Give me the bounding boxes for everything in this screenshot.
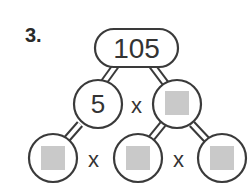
connector-five-left [66, 124, 80, 140]
blank-box-icon [41, 146, 65, 170]
problem-number: 3. [25, 24, 42, 47]
factor-tree: 3. 105 5 x x x [0, 0, 252, 190]
five-value: 5 [74, 91, 122, 117]
root-value: 105 [95, 35, 178, 63]
blank-box-icon [210, 146, 234, 170]
multiply-sign-level2-b: x [173, 149, 184, 171]
multiply-sign-level1: x [131, 95, 142, 117]
multiply-sign-level2-a: x [88, 149, 99, 171]
connector-blank-right [192, 124, 207, 140]
blank-box-icon [126, 146, 150, 170]
blank-box-icon [165, 91, 189, 115]
